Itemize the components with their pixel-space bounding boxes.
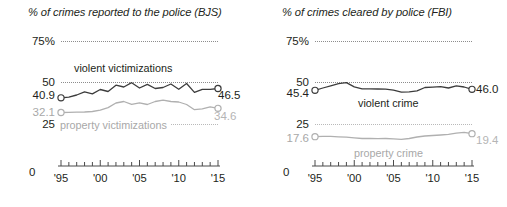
series-line-property-crime — [315, 132, 472, 139]
xtick-label: '05 — [132, 172, 147, 184]
series-line-violent-crime — [315, 83, 472, 93]
series-end-marker — [215, 85, 221, 91]
xtick-label: '00 — [347, 172, 362, 184]
xtick-label: '15 — [465, 172, 480, 184]
series-start-marker — [312, 134, 318, 140]
series-start-marker — [312, 87, 318, 93]
series-end-marker — [215, 105, 221, 111]
series-end-marker — [469, 131, 475, 137]
xtick-label: '00 — [93, 172, 108, 184]
chart-svg-right: '95'00'05'10'15 — [254, 0, 507, 207]
xtick-label: '15 — [211, 172, 226, 184]
chart-svg-left: '95'00'05'10'15 — [0, 0, 254, 207]
xtick-label: '05 — [386, 172, 401, 184]
series-line-violent-victimizations — [61, 83, 218, 98]
xtick-label: '10 — [425, 172, 440, 184]
series-start-marker — [58, 95, 64, 101]
xtick-label: '95 — [308, 172, 323, 184]
chart-panel-reported: % of crimes reported to the police (BJS)… — [0, 0, 254, 207]
xtick-label: '10 — [171, 172, 186, 184]
xtick-label: '95 — [54, 172, 69, 184]
series-line-property-victimizations — [61, 100, 218, 112]
series-start-marker — [58, 109, 64, 115]
chart-panel-cleared: % of crimes cleared by police (FBI) 75% … — [254, 0, 507, 207]
series-end-marker — [469, 86, 475, 92]
figure-root: % of crimes reported to the police (BJS)… — [0, 0, 507, 207]
